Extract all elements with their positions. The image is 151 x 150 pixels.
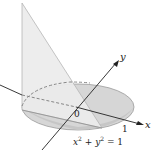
x-axis-back [0,85,22,95]
solid-wedge-diagram: y x 0 1 x2 + y2 = 1 [0,0,151,150]
x-tick-label-1: 1 [122,124,128,134]
wedge-face [22,3,102,128]
equation-label: x2 + y2 = 1 [73,135,123,147]
x-axis-arrow-icon [136,121,144,125]
x-axis-label: x [145,119,151,130]
origin-label: 0 [74,109,80,119]
y-axis-label: y [119,51,126,62]
